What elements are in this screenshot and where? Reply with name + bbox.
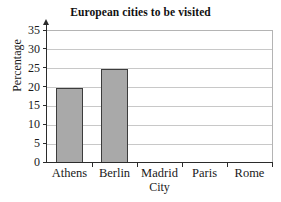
x-tick-label: Berlin [92, 166, 137, 180]
y-tick-mark [43, 48, 47, 49]
bar-chart-figure: European cities to be visited Percentage… [0, 0, 281, 202]
bar [101, 69, 128, 163]
y-tick-mark [43, 86, 47, 87]
y-tick-label: 20 [14, 81, 40, 93]
bar [56, 88, 83, 163]
x-axis-line [46, 162, 273, 163]
y-tick-mark [43, 143, 47, 144]
y-tick-label: 35 [14, 24, 40, 36]
x-tick-label: Paris [182, 166, 227, 180]
y-tick-mark [43, 67, 47, 68]
y-tick-mark [43, 105, 47, 106]
y-tick-label: 25 [14, 62, 40, 74]
y-tick-label: 5 [14, 137, 40, 149]
y-tick-label: 15 [14, 99, 40, 111]
y-tick-mark [43, 162, 47, 163]
x-tick-label: Athens [47, 166, 92, 180]
y-tick-mark [43, 30, 47, 31]
y-tick-label: 0 [14, 156, 40, 168]
chart-title: European cities to be visited [0, 6, 281, 18]
gridline [47, 49, 272, 50]
gridline [47, 68, 272, 69]
y-tick-label: 30 [14, 43, 40, 55]
x-tick-label: Madrid [137, 166, 182, 180]
y-tick-mark [43, 124, 47, 125]
plot-area [47, 30, 273, 163]
x-axis-title: City [47, 180, 272, 195]
y-tick-label: 10 [14, 118, 40, 130]
x-tick-label: Rome [227, 166, 272, 180]
y-axis-arrow-icon [43, 19, 49, 25]
